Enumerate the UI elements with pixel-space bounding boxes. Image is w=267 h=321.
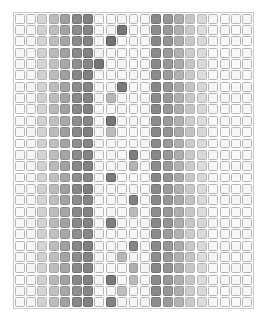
heatmap-cell <box>231 36 241 46</box>
heatmap-cell <box>49 127 59 137</box>
heatmap-cell <box>15 48 25 58</box>
heatmap-cell <box>72 263 82 273</box>
heatmap-cell <box>197 139 207 149</box>
heatmap-cell <box>129 104 139 114</box>
heatmap-cell <box>163 139 173 149</box>
heatmap-cell <box>220 25 230 35</box>
heatmap-cell <box>72 59 82 69</box>
heatmap-cell <box>197 263 207 273</box>
heatmap-cell <box>72 229 82 239</box>
heatmap-cell <box>231 173 241 183</box>
heatmap-cell <box>242 139 252 149</box>
heatmap-cell <box>242 70 252 80</box>
heatmap-cell <box>242 297 252 307</box>
heatmap-cell <box>129 263 139 273</box>
heatmap-cell <box>242 93 252 103</box>
heatmap-cell <box>242 229 252 239</box>
heatmap-cell <box>72 139 82 149</box>
heatmap-cell <box>83 104 93 114</box>
heatmap-cell <box>26 184 36 194</box>
heatmap-cell <box>242 195 252 205</box>
heatmap-cell <box>151 207 161 217</box>
heatmap-cell <box>26 150 36 160</box>
heatmap-cell <box>242 263 252 273</box>
heatmap-cell <box>106 184 116 194</box>
heatmap-cell <box>37 275 47 285</box>
heatmap-cell <box>208 82 218 92</box>
heatmap-cell <box>174 241 184 251</box>
heatmap-cell <box>72 275 82 285</box>
heatmap-cell <box>163 286 173 296</box>
heatmap-cell <box>49 150 59 160</box>
heatmap-cell <box>174 25 184 35</box>
heatmap-cell <box>94 218 104 228</box>
heatmap-cell <box>220 139 230 149</box>
heatmap-cell <box>163 25 173 35</box>
heatmap-cell <box>129 127 139 137</box>
heatmap-cell <box>49 82 59 92</box>
heatmap-cell <box>106 116 116 126</box>
heatmap-cell <box>197 229 207 239</box>
heatmap-cell <box>163 59 173 69</box>
heatmap-cell <box>49 286 59 296</box>
heatmap-cell <box>140 161 150 171</box>
heatmap-cell <box>129 241 139 251</box>
heatmap-cell <box>163 104 173 114</box>
heatmap-cell <box>140 139 150 149</box>
heatmap-cell <box>231 218 241 228</box>
heatmap-cell <box>163 82 173 92</box>
heatmap-cell <box>140 229 150 239</box>
heatmap-cell <box>140 173 150 183</box>
heatmap-cell <box>117 275 127 285</box>
heatmap-cell <box>94 93 104 103</box>
heatmap-cell <box>49 139 59 149</box>
heatmap-cell <box>129 195 139 205</box>
heatmap-cell <box>163 184 173 194</box>
heatmap-cell <box>94 195 104 205</box>
heatmap-cell <box>49 195 59 205</box>
heatmap-cell <box>140 263 150 273</box>
heatmap-cell <box>49 14 59 24</box>
heatmap-cell <box>15 104 25 114</box>
heatmap-cell <box>242 252 252 262</box>
heatmap-cell <box>208 59 218 69</box>
heatmap-cell <box>26 25 36 35</box>
heatmap-cell <box>37 127 47 137</box>
heatmap-cell <box>197 195 207 205</box>
heatmap-cell <box>37 116 47 126</box>
heatmap-cell <box>60 36 70 46</box>
heatmap-cell <box>151 127 161 137</box>
heatmap-cell <box>140 252 150 262</box>
heatmap-cell <box>83 275 93 285</box>
heatmap-cell <box>117 93 127 103</box>
heatmap-cell <box>163 48 173 58</box>
heatmap-cell <box>140 48 150 58</box>
heatmap-cell <box>129 25 139 35</box>
figure-container <box>0 0 267 321</box>
heatmap-cell <box>117 127 127 137</box>
heatmap-cell <box>15 241 25 251</box>
heatmap-cell <box>220 36 230 46</box>
heatmap-cell <box>129 70 139 80</box>
heatmap-cell <box>117 161 127 171</box>
heatmap-cell <box>208 14 218 24</box>
heatmap-cell <box>231 139 241 149</box>
heatmap-cell <box>83 218 93 228</box>
heatmap-cell <box>197 48 207 58</box>
heatmap-cell <box>37 70 47 80</box>
heatmap-cell <box>220 150 230 160</box>
heatmap-cell <box>174 184 184 194</box>
heatmap-cell <box>242 184 252 194</box>
heatmap-cell <box>129 297 139 307</box>
heatmap-cell <box>185 252 195 262</box>
heatmap-cell <box>129 218 139 228</box>
heatmap-cell <box>208 207 218 217</box>
heatmap-cell <box>49 275 59 285</box>
heatmap-cell <box>231 93 241 103</box>
heatmap-cell <box>163 36 173 46</box>
heatmap-cell <box>72 252 82 262</box>
heatmap-cell <box>231 14 241 24</box>
heatmap-cell <box>94 127 104 137</box>
heatmap-cell <box>60 263 70 273</box>
heatmap-cell <box>15 184 25 194</box>
